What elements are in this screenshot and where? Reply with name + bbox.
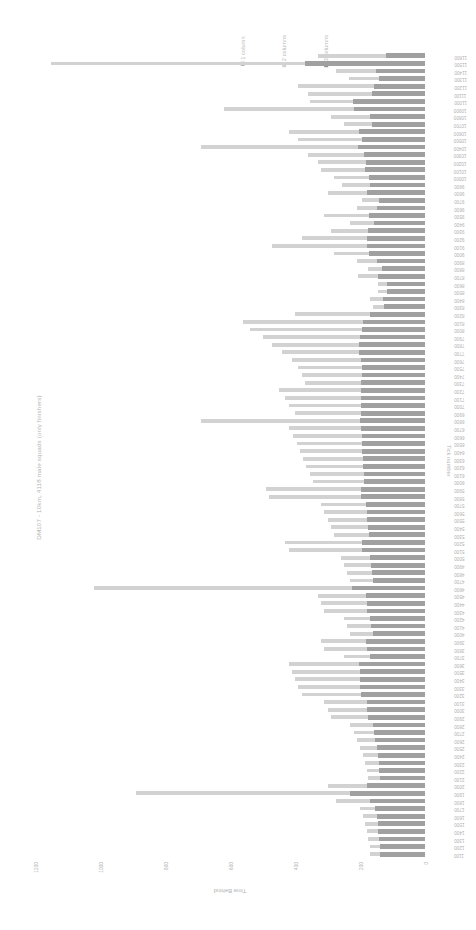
bar-segment-1 <box>369 251 425 256</box>
y-tick-label: 10800 <box>454 114 467 119</box>
y-tick-label: 3100 <box>454 700 464 705</box>
y-tick-label: 5700 <box>454 502 464 507</box>
bar-segment-1 <box>382 266 425 271</box>
y-tick-label: 8400 <box>454 297 464 302</box>
bar-row <box>35 440 425 448</box>
bar-row <box>35 455 425 463</box>
bar-segment-1 <box>359 350 425 355</box>
bar-segment-2 <box>292 670 360 674</box>
bar-row <box>35 516 425 524</box>
y-tick-label: 11600 <box>454 54 466 59</box>
bar-row <box>35 508 425 516</box>
y-tick-label: 11400 <box>454 69 466 74</box>
y-tick-label: 1400 <box>454 829 464 834</box>
bar-segment-1 <box>350 791 425 796</box>
chart-legend: 1 column2 columns3 columns <box>228 6 342 54</box>
chart-page: DM107 - 10km, 4118 male squads (only fin… <box>0 0 476 930</box>
x-tick-label: 1000 <box>100 862 105 873</box>
bar-segment-1 <box>361 494 425 499</box>
y-tick-label: 4200 <box>454 616 464 621</box>
bar-segment-2 <box>373 305 384 309</box>
bar-row <box>35 250 425 258</box>
y-tick-label: 8100 <box>454 320 464 325</box>
bar-segment-2 <box>318 160 366 164</box>
bar-segment-1 <box>377 259 425 264</box>
bar-segment-2 <box>324 214 368 218</box>
bar-row <box>35 227 425 235</box>
bar-segment-1 <box>366 639 425 644</box>
bar-segment-1 <box>368 228 425 233</box>
bar-segment-2 <box>279 388 361 392</box>
bar-row <box>35 257 425 265</box>
bar-segment-1 <box>369 213 425 218</box>
y-tick-label: 6300 <box>454 457 464 462</box>
bar-row <box>35 394 425 402</box>
bar-row <box>35 721 425 729</box>
bar-segment-1 <box>379 837 425 842</box>
y-tick-label: 5300 <box>454 533 464 538</box>
bar-segment-2 <box>266 487 362 491</box>
y-axis-title: Tick number <box>446 445 452 535</box>
bar-row <box>35 189 425 197</box>
bar-segment-1 <box>379 198 425 203</box>
y-tick-label: 2900 <box>454 715 464 720</box>
x-axis-title: Time Behind <box>35 888 425 894</box>
bar-row <box>35 75 425 83</box>
bar-segment-1 <box>371 563 425 568</box>
bar-row <box>35 676 425 684</box>
y-tick-label: 8600 <box>454 282 464 287</box>
bar-row <box>35 744 425 752</box>
y-tick-label: 2300 <box>454 761 464 766</box>
bar-segment-1 <box>366 593 425 598</box>
bar-row <box>35 607 425 615</box>
bar-segment-1 <box>367 190 426 195</box>
bar-segment-1 <box>370 114 425 119</box>
y-tick-label: 5400 <box>454 525 464 530</box>
y-tick-label: 3900 <box>454 639 464 644</box>
bar-row <box>35 371 425 379</box>
y-tick-label: 3600 <box>454 662 464 667</box>
y-tick-label: 4900 <box>454 563 464 568</box>
bar-row <box>35 425 425 433</box>
y-tick-label: 3700 <box>454 654 464 659</box>
y-tick-label: 4600 <box>454 586 464 591</box>
bar-row <box>35 531 425 539</box>
bar-segment-1 <box>371 624 425 629</box>
bar-segment-2 <box>324 700 366 704</box>
bar-row <box>35 158 425 166</box>
bar-segment-2 <box>334 176 369 180</box>
bar-segment-2 <box>313 480 365 484</box>
bar-segment-1 <box>364 472 425 477</box>
y-tick-label: 10600 <box>454 130 467 135</box>
bar-row <box>35 820 425 828</box>
bar-segment-1 <box>370 799 425 804</box>
bar-row <box>35 341 425 349</box>
x-tick-label: 800 <box>165 862 170 870</box>
bar-segment-2 <box>365 822 378 826</box>
bar-segment-2 <box>289 404 361 408</box>
bar-segment-1 <box>305 61 425 66</box>
bar-segment-2 <box>357 206 377 210</box>
y-tick-label: 3800 <box>454 647 464 652</box>
y-tick-label: 9800 <box>454 190 464 195</box>
bar-row <box>35 432 425 440</box>
bar-row <box>35 835 425 843</box>
bar-segment-2 <box>201 419 360 423</box>
bar-row <box>35 782 425 790</box>
bar-row <box>35 174 425 182</box>
y-tick-label: 10200 <box>454 160 467 165</box>
bar-segment-1 <box>360 677 425 682</box>
bar-row <box>35 523 425 531</box>
y-tick-label: 5500 <box>454 517 464 522</box>
y-tick-label: 8200 <box>454 312 464 317</box>
y-tick-label: 7100 <box>454 396 464 401</box>
y-tick-label: 6100 <box>454 472 464 477</box>
bar-segment-2 <box>324 609 366 613</box>
y-tick-label: 6000 <box>454 479 464 484</box>
bar-segment-2 <box>201 145 358 149</box>
bar-row <box>35 493 425 501</box>
bar-segment-2 <box>331 115 371 119</box>
bar-segment-1 <box>352 586 425 591</box>
bar-row <box>35 691 425 699</box>
bar-row <box>35 303 425 311</box>
